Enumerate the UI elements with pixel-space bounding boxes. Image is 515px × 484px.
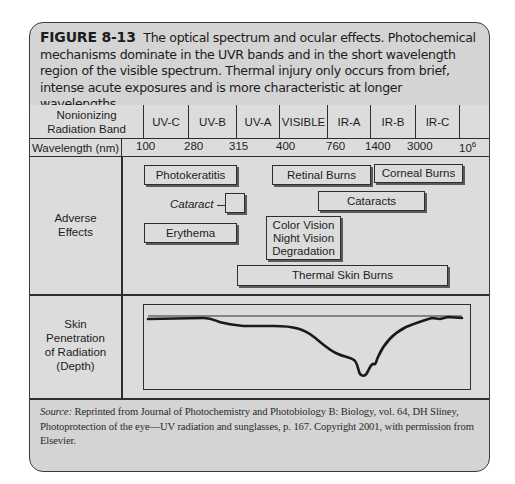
effect-vision-degradation: Color Vision Night Vision Degradation	[266, 216, 341, 260]
band-uv-a: UV-A	[237, 105, 280, 139]
source-note: Source: Reprinted from Journal of Photoc…	[40, 405, 480, 449]
effect-label: Thermal Skin Burns	[292, 269, 393, 282]
cataract-connector	[217, 205, 225, 206]
band-header-cell: Nonionizing Radiation Band	[30, 105, 144, 139]
penetration-depth-curve	[144, 305, 470, 389]
effect-label: Retinal Burns	[287, 169, 356, 182]
adverse-line1: Adverse	[30, 211, 121, 225]
figure-label: FIGURE 8-13	[40, 29, 136, 45]
wavelength-1400: 1400	[365, 140, 391, 152]
table-bottom-border	[30, 398, 490, 400]
effect-photokeratitis: Photokeratitis	[144, 165, 237, 185]
band-empty	[460, 105, 490, 139]
cataract-uv-label: Cataract	[170, 198, 213, 210]
band-label: IR-C	[426, 116, 450, 128]
wavelength-760: 760	[326, 140, 345, 152]
source-text: Reprinted from Journal of Photochemistry…	[40, 406, 474, 446]
band-label: IR-A	[338, 116, 361, 128]
wavelength-last-base: 10	[459, 142, 472, 154]
band-label: UV-A	[245, 116, 272, 128]
wavelength-315: 315	[229, 140, 248, 152]
source-label: Source:	[40, 406, 72, 417]
band-header-line2: Radiation Band	[47, 122, 126, 136]
effect-label: Cataracts	[347, 195, 396, 208]
adverse-effects-header: Adverse Effects	[30, 211, 121, 239]
effect-erythema: Erythema	[144, 223, 237, 243]
band-ir-a: IR-A	[328, 105, 371, 139]
wavelength-last-exp: 6	[472, 140, 476, 149]
band-ir-c: IR-C	[416, 105, 460, 139]
effect-retinal-burns: Retinal Burns	[272, 165, 371, 185]
skin-line3: of Radiation	[30, 345, 121, 359]
figure-caption: FIGURE 8-13 The optical spectrum and ocu…	[40, 29, 480, 113]
band-label: IR-B	[382, 116, 405, 128]
effect-label: Photokeratitis	[156, 169, 226, 182]
skin-penetration-chart	[143, 304, 471, 390]
wavelength-100: 100	[136, 140, 155, 152]
band-label: UV-B	[199, 116, 226, 128]
effect-label: Corneal Burns	[382, 167, 456, 180]
figure-panel: FIGURE 8-13 The optical spectrum and ocu…	[29, 22, 490, 472]
band-label: UV-C	[152, 116, 179, 128]
wavelength-400: 400	[276, 140, 295, 152]
band-label: VISIBLE	[282, 116, 325, 128]
effect-label-night-vision: Night Vision	[273, 232, 334, 245]
effect-cataracts-ir: Cataracts	[318, 191, 425, 211]
band-header-line1: Nonionizing	[56, 108, 116, 122]
wavelength-values: 100 280 315 400 760 1400 3000 106	[122, 140, 490, 157]
adverse-line2: Effects	[30, 225, 121, 239]
band-visible: VISIBLE	[280, 105, 328, 139]
effect-corneal-burns: Corneal Burns	[374, 164, 463, 183]
skin-line4: (Depth)	[30, 359, 121, 373]
row-label-divider	[121, 157, 123, 399]
effect-label-degradation: Degradation	[272, 245, 335, 258]
wavelength-280: 280	[184, 140, 203, 152]
skin-line2: Penetration	[30, 331, 121, 345]
wavelength-header: Wavelength (nm)	[32, 142, 119, 154]
band-uv-b: UV-B	[189, 105, 237, 139]
row-divider-effects	[30, 294, 490, 296]
band-uv-c: UV-C	[144, 105, 189, 139]
wavelength-10e6: 106	[459, 140, 476, 154]
band-ir-b: IR-B	[371, 105, 416, 139]
skin-penetration-header: Skin Penetration of Radiation (Depth)	[30, 317, 121, 373]
skin-line1: Skin	[30, 317, 121, 331]
spectrum-table: Nonionizing Radiation Band UV-C UV-B UV-…	[30, 105, 490, 399]
effect-thermal-skin-burns: Thermal Skin Burns	[237, 265, 448, 286]
effect-label-color-vision: Color Vision	[273, 219, 335, 232]
effect-cataract-uv	[225, 193, 245, 213]
effect-label: Erythema	[166, 227, 215, 240]
wavelength-3000: 3000	[407, 140, 433, 152]
wavelength-header-cell: Wavelength (nm)	[30, 139, 122, 157]
